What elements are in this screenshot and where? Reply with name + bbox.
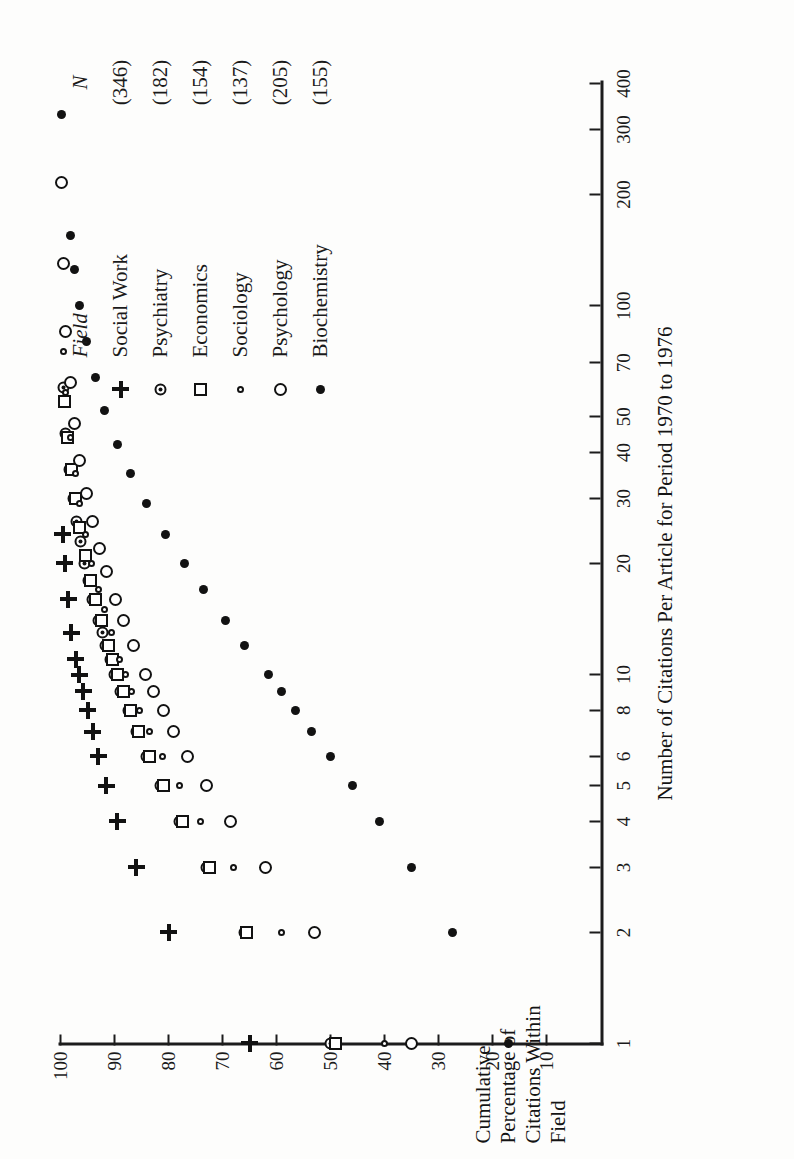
x-tick-label: 10 [613,665,632,684]
x-tick [589,304,600,306]
data-point-economics [88,592,101,605]
legend-small-circle-icon [237,386,244,393]
data-point-social-work [67,650,84,667]
data-point-biochemistry [180,559,189,568]
data-point-biochemistry [75,301,84,310]
data-point-sociology [128,687,135,694]
data-point-economics [101,638,114,651]
x-tick [589,193,600,195]
data-point-biochemistry [65,230,74,239]
data-point-social-work [62,624,79,641]
data-point-psychology [86,514,99,527]
data-point-biochemistry [347,781,356,790]
data-point-sociology [229,863,236,870]
data-point-biochemistry [161,529,170,538]
data-point-psychology [54,176,67,189]
x-tick [589,784,600,786]
legend-n-value: (182) [148,47,173,117]
data-point-sociology [136,706,143,713]
legend-n-value: (137) [228,47,253,117]
data-point-social-work [127,858,144,875]
y-tick-label: 80 [159,1051,178,1081]
data-point-psychology [180,749,193,762]
x-tick-label: 100 [613,291,632,320]
data-point-social-work [108,812,125,829]
data-point-biochemistry [447,927,456,936]
legend-n-value: (154) [188,47,213,117]
data-point-psychology [224,814,237,827]
x-tick [589,820,600,822]
data-point-social-work [56,555,73,572]
data-point-economics [240,925,253,938]
y-tick-label: 50 [321,1051,340,1081]
data-point-economics [202,860,215,873]
y-tick [167,1034,169,1045]
data-point-psychology [405,1037,418,1050]
data-point-economics [83,573,96,586]
data-point-psychology [146,684,159,697]
rotated-figure-wrapper: 1234568102030405070100200300400 10203040… [0,0,794,1159]
x-tick-label: 30 [613,489,632,508]
legend-field-label: Biochemistry [308,244,333,357]
x-tick-label: 8 [613,705,632,715]
data-point-psychology [73,454,86,467]
x-axis-title: Number of Citations Per Article for Peri… [652,326,677,800]
data-point-sociology [197,817,204,824]
data-point-social-work [70,666,87,683]
data-point-social-work [160,923,177,940]
data-point-psychology [56,257,69,270]
data-point-economics [143,749,156,762]
data-point-psychology [156,703,169,716]
x-tick [589,931,600,933]
x-tick [589,361,600,363]
data-point-biochemistry [504,1039,513,1048]
data-point-biochemistry [90,372,99,381]
legend-n-value: (346) [108,47,133,117]
y-tick-label: 90 [105,1051,124,1081]
scatter-plot-area: 1234568102030405070100200300400 10203040… [0,0,794,1159]
data-point-biochemistry [407,862,416,871]
data-point-sociology [278,928,285,935]
data-point-biochemistry [307,727,316,736]
legend-plus-icon [112,381,129,398]
legend-n-value: (205) [268,47,293,117]
legend-header-field: Field [68,313,93,357]
y-tick [437,1034,439,1045]
data-point-psychology [307,925,320,938]
data-point-sociology [146,728,153,735]
legend-n-value: (155) [308,47,333,117]
x-tick [589,709,600,711]
x-tick-label: 40 [613,442,632,461]
data-point-biochemistry [277,686,286,695]
data-point-social-work [241,1035,258,1052]
data-point-biochemistry [374,816,383,825]
x-tick-label: 1 [613,1038,632,1048]
legend-field-label: Economics [188,264,213,357]
y-tick-label: 60 [267,1051,286,1081]
y-tick-label: 30 [429,1051,448,1081]
data-point-social-work [74,682,91,699]
x-tick-label: 50 [613,407,632,426]
data-point-biochemistry [220,616,229,625]
y-tick [113,1034,115,1045]
y-tick-label: 100 [51,1051,70,1081]
x-tick-label: 20 [613,554,632,573]
data-point-biochemistry [112,440,121,449]
x-tick-label: 5 [613,780,632,790]
data-point-sociology [381,1040,388,1047]
data-point-sociology [59,348,66,355]
data-point-social-work [59,590,76,607]
x-tick-label: 2 [613,927,632,937]
legend-field-label: Social Work [108,254,133,358]
data-point-economics [57,394,70,407]
data-point-sociology [62,389,69,396]
x-tick [589,755,600,757]
data-point-sociology [175,782,182,789]
data-point-psychiatry [96,626,108,638]
data-point-psychology [199,779,212,792]
legend-square-icon [194,383,207,396]
legend-bullseye-icon [154,383,166,395]
x-tick-label: 400 [613,69,632,98]
data-point-psychology [63,375,76,388]
data-point-biochemistry [126,469,135,478]
